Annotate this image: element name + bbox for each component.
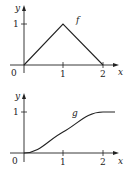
f-label: f: [75, 15, 81, 25]
y-axis-arrow-icon: [22, 93, 26, 99]
x-axis-label: x: [118, 156, 123, 166]
y-tick-label-1: 1: [13, 107, 19, 117]
g-label: g: [72, 108, 78, 118]
y-tick-label-1: 1: [13, 19, 19, 29]
x-axis-label: x: [118, 67, 123, 77]
x-tick-label-1: 1: [60, 69, 66, 79]
x-axis-arrow-icon: [113, 151, 119, 155]
y-axis-label: y: [14, 3, 21, 13]
f-line: [24, 24, 103, 65]
graphs: y x 1 0 1 2 f y x 1 0 1 2 g: [0, 0, 126, 173]
x-tick-label-0: 0: [12, 156, 18, 166]
g-curve: [24, 112, 115, 153]
y-axis-arrow-icon: [22, 5, 26, 11]
x-tick-label-1: 1: [60, 157, 66, 167]
chart-g: y x 1 0 1 2 g: [10, 91, 123, 167]
x-tick-label-2: 2: [100, 157, 106, 167]
x-tick-label-0: 0: [11, 68, 17, 78]
x-tick-label-2: 2: [100, 69, 106, 79]
chart-f: y x 1 0 1 2 f: [10, 3, 123, 79]
y-axis-label: y: [14, 91, 21, 101]
